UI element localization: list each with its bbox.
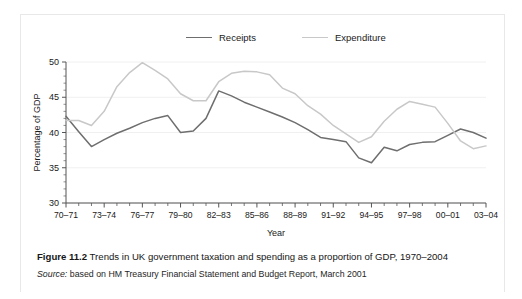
x-axis-tick-label: 73–74 bbox=[92, 210, 116, 220]
figure-caption-text: Trends in UK government taxation and spe… bbox=[87, 251, 448, 262]
legend-item-receipts: Receipts bbox=[186, 33, 256, 43]
x-axis-tick-label: 85–86 bbox=[245, 210, 269, 220]
source-text: based on HM Treasury Financial Statement… bbox=[67, 269, 366, 279]
x-axis-tick-label: 03–04 bbox=[474, 210, 498, 220]
y-axis-tick-label: 45 bbox=[49, 92, 59, 102]
series-paths-group bbox=[66, 63, 486, 163]
y-axis-tick-label: 35 bbox=[49, 163, 59, 173]
x-axis-tick-label: 79–80 bbox=[169, 210, 193, 220]
y-axis-tick-label: 50 bbox=[49, 57, 59, 67]
figure-caption: Figure 11.2 Trends in UK government taxa… bbox=[37, 250, 487, 264]
x-axis-tick-label: 70–71 bbox=[54, 210, 78, 220]
x-axis-title: Year bbox=[267, 228, 285, 238]
legend-item-expenditure: Expenditure bbox=[302, 33, 386, 43]
x-axis-tick-label: 00–01 bbox=[436, 210, 460, 220]
x-axis-tick-label: 76–77 bbox=[130, 210, 154, 220]
caption-block: Figure 11.2 Trends in UK government taxa… bbox=[37, 250, 487, 279]
figure-source: Source: based on HM Treasury Financial S… bbox=[37, 269, 487, 279]
figure-page: 3035404550 70–7173–7476–7779–8082–8385–8… bbox=[0, 0, 522, 299]
chart-legend: Receipts Expenditure bbox=[186, 33, 386, 43]
x-axis-tick-label: 91–92 bbox=[321, 210, 345, 220]
x-axis-ticks-group bbox=[66, 203, 486, 208]
source-label: Source: bbox=[37, 269, 67, 279]
x-axis-tick-label: 82–83 bbox=[207, 210, 231, 220]
y-axis-tick-label: 40 bbox=[49, 128, 59, 138]
legend-label-expenditure: Expenditure bbox=[335, 33, 386, 43]
y-axis-tick-labels-group: 3035404550 bbox=[49, 57, 59, 208]
caption-divider bbox=[21, 243, 504, 244]
legend-swatch-expenditure bbox=[302, 37, 328, 38]
x-axis-tick-label: 94–95 bbox=[360, 210, 384, 220]
gridlines-group bbox=[66, 62, 486, 203]
legend-label-receipts: Receipts bbox=[219, 33, 256, 43]
x-axis-tick-label: 88–89 bbox=[283, 210, 307, 220]
series-line-expenditure bbox=[66, 63, 486, 149]
y-axis-tick-label: 30 bbox=[49, 198, 59, 208]
y-axis-title: Percentage of GDP bbox=[32, 93, 42, 171]
x-axis-tick-label: 97–98 bbox=[398, 210, 422, 220]
figure-number: Figure 11.2 bbox=[37, 251, 87, 262]
legend-swatch-receipts bbox=[186, 37, 212, 38]
x-axis-tick-labels-group: 70–7173–7476–7779–8082–8385–8688–8991–92… bbox=[54, 210, 498, 220]
series-line-receipts bbox=[66, 91, 486, 163]
